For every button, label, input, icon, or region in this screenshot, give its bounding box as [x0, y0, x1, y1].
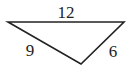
side-label-right: 6 [109, 42, 118, 61]
side-label-top: 12 [58, 3, 75, 22]
triangle-diagram: 12 9 6 [0, 0, 130, 70]
side-label-left: 9 [26, 41, 35, 60]
